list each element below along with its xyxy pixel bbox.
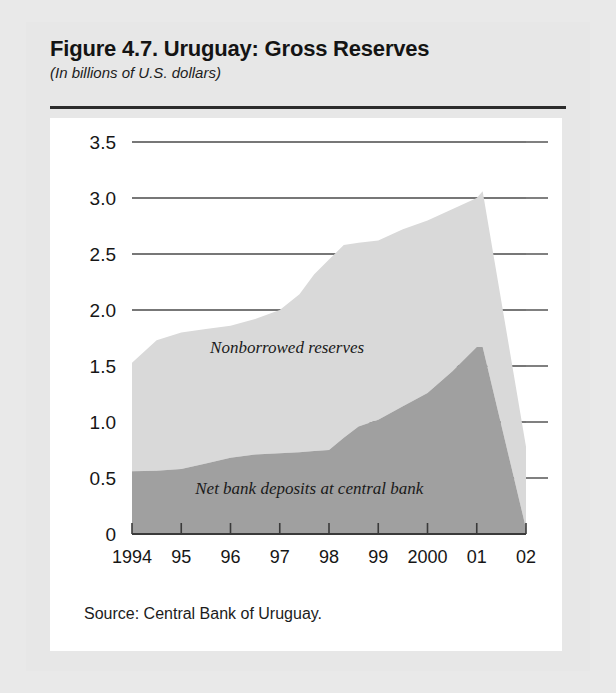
y-tick-label: 1.5 <box>90 356 116 377</box>
x-tick-label: 95 <box>171 547 191 567</box>
figure-header: Figure 4.7. Uruguay: Gross Reserves (In … <box>50 36 566 81</box>
x-tick-label: 2000 <box>407 547 447 567</box>
y-tick-label: 0 <box>105 524 116 545</box>
x-tick-labels: 1994959697989920000102 <box>112 547 536 567</box>
x-tick-label: 96 <box>220 547 240 567</box>
x-tick-label: 98 <box>319 547 339 567</box>
x-tick-label: 99 <box>368 547 388 567</box>
figure-title: Figure 4.7. Uruguay: Gross Reserves <box>50 36 566 61</box>
x-tick-label: 01 <box>467 547 487 567</box>
chart-card: 00.51.01.52.02.53.03.5 19949596979899200… <box>50 118 562 651</box>
x-tick-label: 97 <box>270 547 290 567</box>
x-tick-label: 1994 <box>112 547 152 567</box>
y-tick-label: 2.5 <box>90 244 116 265</box>
header-divider <box>50 106 566 109</box>
y-tick-label: 2.0 <box>90 300 116 321</box>
series-annotation: Nonborrowed reserves <box>209 338 364 357</box>
stacked-area-chart: 00.51.01.52.02.53.03.5 19949596979899200… <box>50 118 562 588</box>
y-tick-label: 0.5 <box>90 468 116 489</box>
y-tick-labels: 00.51.01.52.02.53.03.5 <box>90 132 116 545</box>
figure-subtitle: (In billions of U.S. dollars) <box>50 64 566 81</box>
figure-container: Figure 4.7. Uruguay: Gross Reserves (In … <box>26 22 590 671</box>
x-tick-label: 02 <box>516 547 536 567</box>
source-note: Source: Central Bank of Uruguay. <box>84 605 322 623</box>
y-tick-label: 3.0 <box>90 188 116 209</box>
y-tick-label: 3.5 <box>90 132 116 153</box>
series-annotation: Net bank deposits at central bank <box>194 479 424 498</box>
plot-area: 00.51.01.52.02.53.03.5 19949596979899200… <box>50 118 562 588</box>
y-tick-label: 1.0 <box>90 412 116 433</box>
